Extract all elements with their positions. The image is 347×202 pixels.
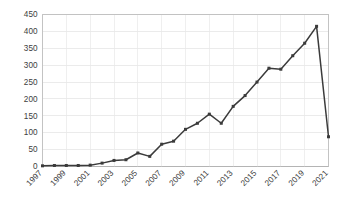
data-point-marker [136,151,139,154]
y-tick-label: 350 [24,44,38,53]
data-point-marker [53,164,56,167]
data-point-marker [89,164,92,167]
data-point-marker [77,164,80,167]
x-tick-label: 2009 [168,168,188,188]
x-tick-label: 2017 [263,168,283,188]
data-point-marker [220,122,223,125]
line-chart: 050100150200250300350400450 199719992001… [0,0,347,202]
x-axis-tick-labels: 1997199920012003200520072009201120132015… [25,168,331,188]
data-point-marker [65,164,68,167]
data-point-marker [113,159,116,162]
y-tick-label: 400 [24,27,38,36]
data-point-marker [267,67,270,70]
x-tick-label: 2015 [239,168,259,188]
data-point-marker [291,54,294,57]
y-tick-label: 450 [24,10,38,19]
x-tick-label: 2021 [311,168,331,188]
data-point-marker [327,135,330,138]
y-tick-label: 150 [24,112,38,121]
data-point-marker [303,42,306,45]
data-point-marker [172,140,175,143]
x-tick-label: 1997 [25,168,45,188]
x-tick-label: 2019 [287,168,307,188]
data-point-marker [279,68,282,71]
data-point-marker [196,122,199,125]
chart-vertical-gridlines [43,15,329,167]
y-tick-label: 200 [24,95,38,104]
x-tick-label: 2005 [120,168,140,188]
data-point-marker [315,25,318,28]
x-tick-label: 1999 [49,168,69,188]
x-tick-label: 2011 [192,168,211,187]
y-axis-tick-labels: 050100150200250300350400450 [24,10,38,171]
x-tick-label: 2013 [215,168,235,188]
data-point-marker [41,164,44,167]
x-tick-label: 2001 [72,168,92,188]
data-point-marker [160,143,163,146]
data-point-marker [256,81,259,84]
x-tick-label: 2003 [96,168,116,188]
y-tick-label: 100 [24,128,38,137]
y-tick-label: 300 [24,61,38,70]
y-tick-label: 250 [24,78,38,87]
data-point-marker [232,105,235,108]
data-point-marker [184,128,187,131]
y-tick-label: 50 [28,145,38,154]
data-point-marker [208,113,211,116]
chart-container: 050100150200250300350400450 199719992001… [0,0,347,202]
data-point-marker [124,158,127,161]
data-point-marker [148,155,151,158]
x-tick-label: 2007 [144,168,164,188]
data-point-marker [244,94,247,97]
data-point-marker [101,162,104,165]
